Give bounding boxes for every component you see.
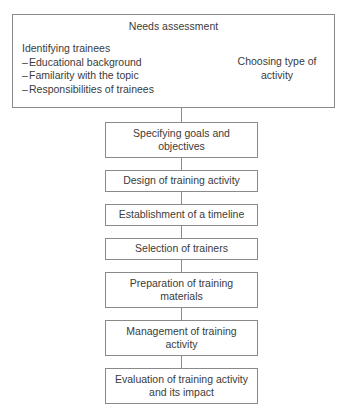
identifying-trainees-list: – Educational background – Familarity wi…: [22, 56, 217, 97]
step-box-establishment-of-a-timeline: Establishment of a timeline: [105, 204, 258, 226]
connector-step-1-to-step-2: [181, 158, 182, 170]
step-box-selection-of-trainers: Selection of trainers: [105, 238, 258, 260]
connector-step-4-to-step-5: [181, 260, 182, 272]
step-label: Preparation of training materials: [106, 277, 257, 304]
step-label: Evaluation of training activity and its …: [106, 373, 257, 400]
dash-bullet-icon: –: [22, 56, 28, 70]
connector-step-6-to-step-7: [181, 356, 182, 368]
needs-assessment-box: Needs assessment Identifying trainees – …: [12, 14, 335, 108]
step-label: Design of training activity: [106, 174, 257, 188]
connector-step-3-to-step-4: [181, 226, 182, 238]
list-item-label: Responsibilities of trainees: [29, 83, 154, 95]
step-label: Specifying goals and objectives: [106, 127, 257, 154]
step-box-specifying-goals-and-objectives: Specifying goals and objectives: [105, 122, 258, 158]
step-box-management-of-training-activity: Management of training activity: [105, 320, 258, 356]
list-item: – Familarity with the topic: [22, 69, 217, 83]
step-box-design-of-training-activity: Design of training activity: [105, 170, 258, 192]
identifying-trainees-heading: Identifying trainees: [22, 42, 217, 56]
list-item-label: Educational background: [29, 56, 142, 68]
needs-assessment-title: Needs assessment: [13, 20, 334, 33]
step-label: Selection of trainers: [106, 242, 257, 256]
dash-bullet-icon: –: [22, 69, 28, 83]
list-item: – Educational background: [22, 56, 217, 70]
step-box-preparation-of-training-materials: Preparation of training materials: [105, 272, 258, 308]
dash-bullet-icon: –: [22, 83, 28, 97]
connector-header-to-step-1: [181, 108, 182, 122]
step-label: Management of training activity: [106, 325, 257, 352]
connector-step-5-to-step-6: [181, 308, 182, 320]
step-label: Establishment of a timeline: [106, 208, 257, 222]
list-item-label: Familarity with the topic: [29, 69, 139, 81]
choosing-type-of-activity-label: Choosing type of activity: [225, 55, 329, 82]
list-item: – Responsibilities of trainees: [22, 83, 217, 97]
connector-step-2-to-step-3: [181, 192, 182, 204]
identifying-trainees-column: Identifying trainees – Educational backg…: [22, 42, 217, 96]
step-box-evaluation-of-training-activity-and-its-impact: Evaluation of training activity and its …: [105, 368, 258, 404]
needs-assessment-columns: Identifying trainees – Educational backg…: [13, 42, 334, 106]
